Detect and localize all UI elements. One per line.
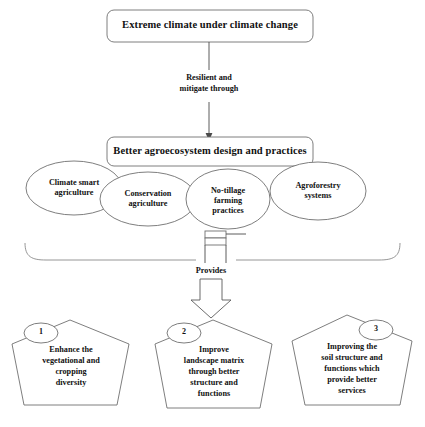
outcome-label-1-line-4: diversity: [24, 378, 118, 389]
outcome-label-2-line-3: through better: [166, 367, 262, 378]
practice-label-3-line-1: No-tillage: [190, 186, 266, 196]
group-brace-right: [236, 243, 400, 260]
small-connector-box-2: [205, 238, 226, 245]
extreme-climate-box-label: Extreme climate under climate change: [107, 19, 313, 31]
outcome-label-3-line-3: functions which: [303, 364, 401, 375]
outcome-label-2-line-1: Improve: [166, 345, 262, 356]
outcome-label-3-line-5: services: [303, 386, 401, 397]
practice-label-1-line-1: Climate smart: [30, 178, 118, 188]
outcome-badge-1-number: 1: [24, 328, 58, 337]
outcome-label-3-line-4: provide better: [303, 375, 401, 386]
provides-label: Provides: [181, 266, 241, 275]
outcome-label-1-line-3: cropping: [24, 367, 118, 378]
practice-label-3-line-2: farming: [190, 196, 266, 206]
connector-label-line-2: mitigate through: [149, 83, 269, 94]
flowchart-diagram: Extreme climate under climate change Res…: [0, 0, 425, 427]
outcome-label-1-line-2: vegetational and: [24, 356, 118, 367]
outcome-label-2-line-4: structure and: [166, 378, 262, 389]
practices-box-label: Better agroecosystem design and practice…: [107, 145, 313, 157]
practice-label-4-line-2: systems: [274, 191, 362, 201]
practice-label-3-line-3: practices: [190, 206, 266, 216]
outcome-badge-2-number: 2: [167, 328, 201, 337]
connector-label-line-1: Resilient and: [149, 72, 269, 83]
small-connector-box: [205, 231, 226, 238]
outcome-label-1-line-1: Enhance the: [24, 345, 118, 356]
outcome-label-2-line-2: landscape matrix: [166, 356, 262, 367]
outcome-label-3-line-2: soil structure and: [303, 353, 401, 364]
outcome-badge-3-number: 3: [359, 325, 393, 334]
provides-block-arrow: [191, 279, 231, 318]
outcome-label-2-line-5: functions: [166, 389, 262, 400]
practice-label-2-line-1: Conservation: [104, 189, 192, 199]
practice-label-2-line-2: agriculture: [104, 199, 192, 209]
outcome-label-3-line-1: Improving the: [303, 342, 401, 353]
practice-label-4-line-1: Agroforestry: [274, 181, 362, 191]
group-brace: [25, 243, 196, 260]
